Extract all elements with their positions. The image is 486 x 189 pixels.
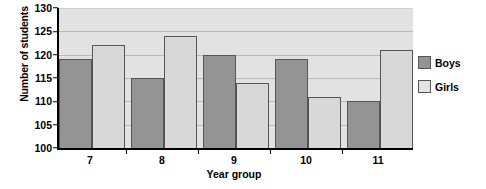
x-tick-7: 7 — [87, 154, 93, 166]
y-tick-100: 100 — [22, 143, 52, 154]
legend: BoysGirls — [418, 56, 461, 104]
legend-label-girls: Girls — [435, 81, 459, 93]
legend-swatch-boys — [418, 56, 431, 69]
y-tick-130: 130 — [22, 3, 52, 14]
y-tick-125: 125 — [22, 26, 52, 37]
x-tick-11: 11 — [372, 154, 383, 166]
y-axis-tick-labels: 100105110115120125130 — [22, 8, 52, 148]
y-tick-105: 105 — [22, 119, 52, 130]
bar-groups — [59, 8, 413, 148]
bar-girls-year-7 — [92, 45, 125, 148]
bar-group-11 — [347, 8, 413, 148]
bar-girls-year-9 — [236, 83, 269, 148]
y-tick-110: 110 — [22, 96, 52, 107]
bar-boys-year-10 — [275, 59, 308, 148]
bar-boys-year-7 — [59, 59, 92, 148]
y-tick-115: 115 — [22, 73, 52, 84]
bar-group-10 — [275, 8, 341, 148]
y-tick-120: 120 — [22, 49, 52, 60]
plot-inner — [59, 8, 413, 148]
bar-girls-year-10 — [308, 97, 341, 148]
bar-boys-year-8 — [131, 78, 164, 148]
x-axis-title: Year group — [57, 168, 411, 180]
bar-group-9 — [203, 8, 269, 148]
bar-chart: Number of students 100105110115120125130… — [0, 0, 486, 189]
legend-item-girls: Girls — [418, 80, 461, 93]
plot-area — [57, 8, 413, 150]
bar-boys-year-11 — [347, 101, 380, 148]
bar-group-8 — [131, 8, 197, 148]
legend-item-boys: Boys — [418, 56, 461, 69]
bar-boys-year-9 — [203, 55, 236, 148]
x-axis-tick-labels: 7891011 — [57, 150, 411, 168]
x-tick-mark — [270, 150, 271, 154]
x-tick-mark — [342, 150, 343, 154]
legend-swatch-girls — [418, 80, 431, 93]
x-tick-9: 9 — [231, 154, 237, 166]
x-tick-10: 10 — [300, 154, 312, 166]
bar-girls-year-8 — [164, 36, 197, 148]
bar-girls-year-11 — [380, 50, 413, 148]
bar-group-7 — [59, 8, 125, 148]
x-tick-mark — [126, 150, 127, 154]
x-tick-mark — [198, 150, 199, 154]
x-tick-8: 8 — [159, 154, 165, 166]
legend-label-boys: Boys — [435, 57, 461, 69]
